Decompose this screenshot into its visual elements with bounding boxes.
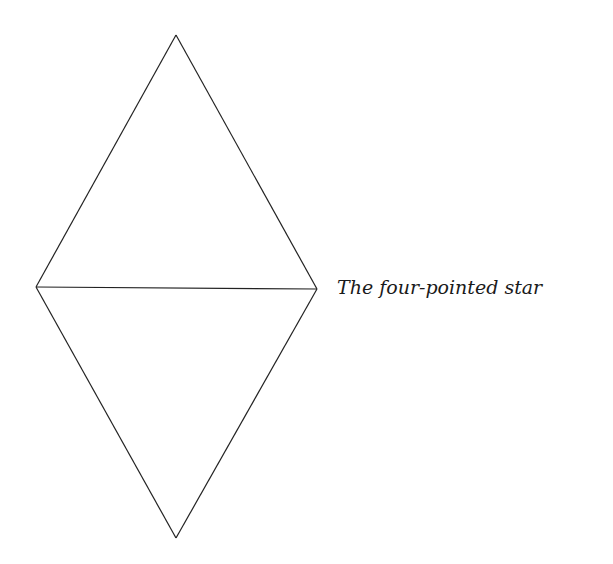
diagram-segments <box>36 35 317 538</box>
segment-left-bottom <box>36 287 176 538</box>
diagram-caption: The four-pointed star <box>337 276 542 298</box>
segment-right-bottom <box>176 289 317 538</box>
segment-top-right <box>176 35 317 289</box>
segment-top-left <box>36 35 176 287</box>
segment-left-right <box>36 287 317 289</box>
